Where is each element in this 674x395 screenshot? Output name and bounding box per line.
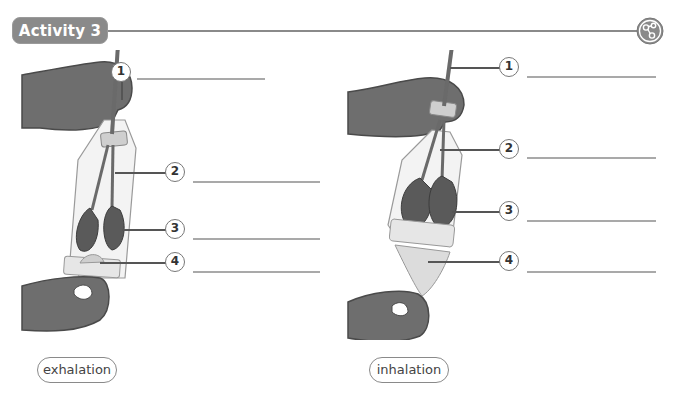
answer-line-3[interactable] xyxy=(193,238,320,240)
callout-2: 2 xyxy=(165,162,185,182)
leader-line xyxy=(452,211,500,213)
answer-line-3[interactable] xyxy=(527,220,656,222)
leader-line xyxy=(428,261,500,263)
answer-line-1[interactable] xyxy=(137,78,265,80)
bell-jar-model-exhalation-illustration xyxy=(0,50,180,340)
callout-3: 3 xyxy=(499,201,519,221)
leader-line xyxy=(450,67,500,69)
callout-2: 2 xyxy=(499,139,519,159)
answer-line-2[interactable] xyxy=(193,181,320,183)
callout-3: 3 xyxy=(165,219,185,239)
network-nodes-icon xyxy=(636,17,664,45)
answer-line-2[interactable] xyxy=(527,157,656,159)
leader-line xyxy=(100,262,166,264)
bell-jar-model-inhalation-illustration xyxy=(340,50,520,340)
callout-4: 4 xyxy=(165,252,185,272)
leader-line xyxy=(122,229,166,231)
header-divider xyxy=(108,30,637,32)
activity-badge: Activity 3 xyxy=(12,17,108,44)
leader-line xyxy=(121,82,123,100)
answer-line-4[interactable] xyxy=(527,271,656,273)
callout-1: 1 xyxy=(499,57,519,77)
callout-4: 4 xyxy=(499,251,519,271)
leader-line xyxy=(440,149,500,151)
caption-exhalation: exhalation xyxy=(37,357,117,383)
caption-inhalation: inhalation xyxy=(369,357,449,383)
answer-line-1[interactable] xyxy=(527,76,656,78)
leader-line xyxy=(115,172,166,174)
answer-line-4[interactable] xyxy=(193,271,320,273)
callout-1: 1 xyxy=(111,62,131,82)
